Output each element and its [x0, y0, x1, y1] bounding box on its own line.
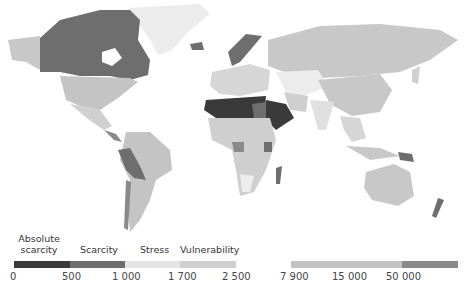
legend-bin-1700-2500: [180, 261, 236, 268]
southeast-asia: [340, 116, 366, 142]
central-america: [104, 130, 122, 142]
europe: [210, 64, 270, 96]
legend-tick: 15 000: [332, 271, 367, 282]
new-zealand: [432, 198, 444, 218]
legend-bin-50000-plus: [402, 261, 458, 268]
madagascar: [276, 166, 282, 184]
kenya: [264, 142, 272, 152]
world-map: [0, 0, 464, 240]
legend-label-vulnerability: Vulnerability: [180, 244, 239, 255]
legend-bin-0-500: [14, 261, 70, 268]
egypt: [252, 102, 266, 118]
legend-bin-500-1000: [70, 261, 125, 268]
legend-label-line: Absolute: [14, 233, 64, 244]
legend-label-scarcity: Scarcity: [80, 244, 118, 255]
legend-tick: 0: [10, 271, 16, 282]
legend-tick: 1 700: [168, 271, 197, 282]
legend-tick: 50 000: [386, 271, 421, 282]
iceland: [190, 42, 204, 50]
legend-label-absolute-scarcity: Absolute scarcity: [14, 233, 64, 255]
indonesia: [346, 146, 400, 160]
legend-tick: 7 900: [280, 271, 309, 282]
australia: [364, 164, 414, 206]
legend-tick: 500: [62, 271, 81, 282]
legend-label-line: scarcity: [14, 244, 64, 255]
legend-label-stress: Stress: [140, 244, 169, 255]
scandinavia: [228, 34, 262, 66]
india: [310, 100, 334, 130]
russia: [268, 24, 458, 78]
japan: [412, 66, 420, 84]
legend-bin-1000-1700: [125, 261, 180, 268]
papua-new-guinea: [398, 152, 414, 162]
legend-bin-7900-50000: [291, 261, 402, 268]
alaska: [8, 36, 40, 70]
canada: [40, 10, 150, 80]
legend-tick: 2 500: [222, 271, 251, 282]
legend-tick: 1 000: [112, 271, 141, 282]
nigeria: [232, 142, 244, 152]
